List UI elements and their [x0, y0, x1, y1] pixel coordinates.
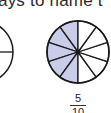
fraction-numerator: 5: [70, 93, 86, 104]
pie-circle-tenths: [47, 21, 109, 83]
fraction-label: 5 10: [70, 93, 86, 113]
left-circle-partial: [0, 21, 13, 83]
fraction-figures: [0, 0, 111, 113]
fraction-denominator: 10: [70, 107, 86, 113]
center-dot: [76, 50, 80, 54]
